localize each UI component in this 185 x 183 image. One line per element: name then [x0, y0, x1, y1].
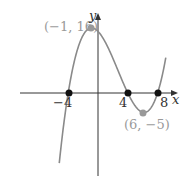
- x-axis-label: x: [172, 92, 180, 107]
- cubic-function-graph: (−1, 16) (6, −5) y x −4 4 8: [0, 0, 185, 183]
- y-axis-label: y: [88, 8, 97, 23]
- tick-label-8: 8: [160, 95, 168, 110]
- function-curve: [59, 28, 166, 163]
- tick-label-neg4: −4: [53, 95, 72, 110]
- local-min-point: [140, 110, 147, 117]
- local-min-label: (6, −5): [124, 117, 170, 132]
- tick-label-4: 4: [119, 95, 127, 110]
